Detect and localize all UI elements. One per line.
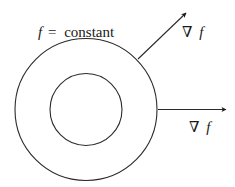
inner-level-curve <box>50 74 122 146</box>
constant-text: constant <box>64 24 115 40</box>
nabla-symbol: ∇ <box>182 24 192 40</box>
gradient-label-bottom: ∇ f <box>189 119 212 135</box>
level-set-label: f = constant <box>38 24 115 40</box>
level-set-diagram: f = constant ∇ f ∇ f <box>0 0 235 187</box>
f-variable: f <box>38 24 44 40</box>
f-variable: f <box>206 119 212 135</box>
gradient-label-top: ∇ f <box>182 24 205 40</box>
f-variable: f <box>199 24 205 40</box>
outer-level-curve <box>15 39 157 181</box>
gradient-arrow-diagonal <box>138 13 186 59</box>
nabla-symbol: ∇ <box>189 119 199 135</box>
equals-sign: = <box>48 24 56 40</box>
